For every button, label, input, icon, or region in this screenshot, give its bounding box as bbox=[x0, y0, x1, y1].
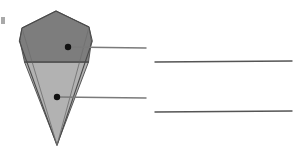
page-edge-mark bbox=[1, 17, 5, 24]
diagram-illustration bbox=[0, 0, 306, 154]
diagram-canvas bbox=[0, 0, 306, 154]
answer-line-2[interactable] bbox=[155, 111, 292, 112]
cone-lower-region bbox=[25, 62, 89, 145]
answer-line-1[interactable] bbox=[155, 61, 292, 62]
callout-dot-lower[interactable] bbox=[54, 94, 60, 100]
cone-upper-region bbox=[20, 11, 92, 62]
leader-line-lower bbox=[57, 97, 146, 98]
leader-line-upper bbox=[68, 47, 146, 48]
callout-dot-upper[interactable] bbox=[65, 44, 71, 50]
